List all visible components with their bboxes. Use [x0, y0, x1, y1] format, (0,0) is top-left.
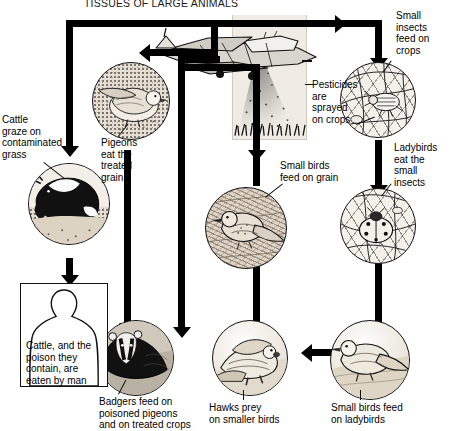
- arrow-grain-branch: [178, 64, 260, 71]
- cow-illustration: [29, 164, 109, 244]
- arrow-cattle-stem: [66, 28, 73, 148]
- arrow-crop-branch: [178, 56, 220, 63]
- vignette-ladybird: [340, 188, 416, 264]
- arrow-insects-ladybirds: [375, 140, 382, 188]
- small-bird-ladybirds-illustration: [331, 321, 409, 399]
- arrowhead-bottom-left: [301, 344, 312, 362]
- arrow-pigeon-h: [150, 49, 218, 56]
- vignette-hawk: [212, 320, 288, 396]
- label-small-birds-grain: Small birds feed on grain: [280, 160, 358, 183]
- label-badgers: Badgers feed on poisoned pigeons and on …: [99, 396, 221, 431]
- arrowhead-to-pigeon: [139, 44, 150, 62]
- man-box: Cattle, and the poison they contain, are…: [20, 283, 108, 387]
- ladybird-illustration: [341, 189, 415, 263]
- arrowhead-to-small-bird: [248, 150, 266, 161]
- hawk-illustration: [213, 321, 287, 395]
- label-small-insects: Small insects feed on crops: [396, 10, 454, 56]
- label-hawks: Hawks prey on smaller birds: [209, 402, 301, 425]
- vignette-pigeon: [92, 62, 170, 140]
- arrow-crop-down-1: [178, 56, 185, 330]
- ladybird-body: [360, 208, 393, 243]
- arrowhead-right-top: [335, 15, 346, 33]
- arrow-left-down: [66, 20, 73, 28]
- page-title: TISSUES OF LARGE ANIMALS: [84, 0, 238, 9]
- badger-illustration: [99, 321, 173, 395]
- vignette-small-bird-ladybirds: [330, 320, 410, 400]
- leader-small-birds-ladybirds: [360, 390, 361, 400]
- arrow-pigeon-riser: [211, 27, 218, 56]
- leader-pesticides: [305, 84, 315, 85]
- arrow-right-stem: [375, 20, 382, 60]
- label-small-birds-ladybirds: Small birds feed on ladybirds: [331, 402, 435, 425]
- arrowhead-crop-down-1: [173, 327, 191, 338]
- leader-hawk: [243, 390, 244, 400]
- arrow-to-small-bird: [253, 64, 260, 186]
- small-bird-illustration: [206, 188, 286, 268]
- man-box-label: Cattle, and the poison they contain, are…: [26, 340, 108, 386]
- label-cattle-graze: Cattle graze on contaminated grass: [2, 114, 64, 160]
- label-ladybirds: Ladybirds eat the small insects: [394, 142, 454, 188]
- vignette-small-bird: [205, 187, 287, 269]
- vignette-cattle: [28, 163, 110, 245]
- vignette-badger: [98, 320, 174, 396]
- pigeon-illustration: [93, 63, 169, 139]
- label-pigeons: Pigeons eat the treated grain: [101, 137, 151, 183]
- bird-body: [214, 211, 284, 249]
